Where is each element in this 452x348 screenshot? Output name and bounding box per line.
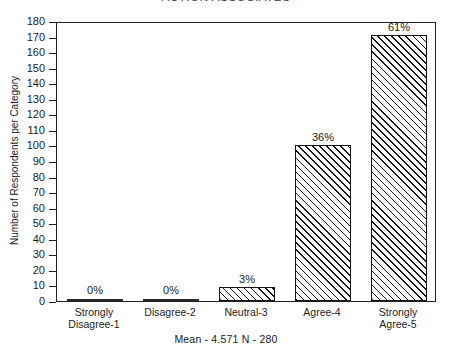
plot-area: 0%0%3%36%61% <box>56 22 436 302</box>
x-axis-category-label: StronglyDisagree-1 <box>56 307 132 330</box>
y-axis-tick-label: 150 <box>5 62 45 75</box>
y-axis-tick-label: 140 <box>5 77 45 90</box>
y-axis-tick-mark <box>49 302 56 303</box>
y-axis-tick-label: 60 <box>5 202 45 215</box>
x-axis-category-label-line: Neutral-3 <box>208 307 284 319</box>
y-axis-tick-label: 80 <box>5 171 45 184</box>
bar: 36% <box>295 145 351 301</box>
chart-title: ACTION ASSOCIATES <box>0 0 452 4</box>
y-axis-tick-label: 90 <box>5 155 45 168</box>
y-axis-tick-mark <box>49 53 56 54</box>
y-axis-tick-mark <box>49 255 56 256</box>
x-axis-category-label-line: Agree-4 <box>284 307 360 319</box>
y-axis-tick-mark <box>49 224 56 225</box>
y-axis-tick-mark <box>49 131 56 132</box>
y-axis-tick-label: 110 <box>5 124 45 137</box>
y-axis-tick-label: 130 <box>5 93 45 106</box>
y-axis-tick-mark <box>49 193 56 194</box>
bar-value-label: 36% <box>312 131 334 143</box>
bar-value-label: 0% <box>163 284 179 296</box>
y-axis-tick-label: 40 <box>5 233 45 246</box>
y-axis-tick-mark <box>49 146 56 147</box>
x-axis-category-label-line: Strongly <box>360 307 436 319</box>
bar: 0% <box>143 299 199 301</box>
bar-value-label: 3% <box>239 273 255 285</box>
y-axis-tick-label: 100 <box>5 139 45 152</box>
y-axis-tick-label: 170 <box>5 31 45 44</box>
x-axis-category-label: Neutral-3 <box>208 307 284 319</box>
y-axis-tick-mark <box>49 22 56 23</box>
y-axis-tick-label: 120 <box>5 108 45 121</box>
y-axis-tick-label: 50 <box>5 217 45 230</box>
x-axis-category-label-line: Strongly <box>56 307 132 319</box>
y-axis-tick-label: 70 <box>5 186 45 199</box>
y-axis-tick-mark <box>49 178 56 179</box>
y-axis-tick-label: 160 <box>5 46 45 59</box>
y-axis-tick-label: 30 <box>5 248 45 261</box>
bar-value-label: 61% <box>388 21 410 33</box>
y-axis-tick-label: 180 <box>5 15 45 28</box>
y-axis-tick-mark <box>49 209 56 210</box>
y-axis-tick-mark <box>49 286 56 287</box>
x-axis-category-label-line: Disagree-1 <box>56 319 132 331</box>
y-axis-tick-label: 0 <box>5 295 45 308</box>
bar-value-label: 0% <box>87 284 103 296</box>
y-axis-tick-mark <box>49 69 56 70</box>
bar: 0% <box>67 299 123 301</box>
x-axis-category-label: Disagree-2 <box>132 307 208 319</box>
y-axis-tick-mark <box>49 38 56 39</box>
y-axis-tick-mark <box>49 271 56 272</box>
y-axis-tick-mark <box>49 115 56 116</box>
x-axis-category-label: StronglyAgree-5 <box>360 307 436 330</box>
bar: 3% <box>219 287 275 301</box>
y-axis-tick-mark <box>49 162 56 163</box>
y-axis-tick-mark <box>49 240 56 241</box>
bar-chart-figure: ACTION ASSOCIATES Number of Respondents … <box>0 0 452 348</box>
y-axis-tick-label: 20 <box>5 264 45 277</box>
bar: 61% <box>371 35 427 301</box>
x-axis-category-label-line: Disagree-2 <box>132 307 208 319</box>
y-axis-tick-label: 10 <box>5 279 45 292</box>
chart-caption: Mean - 4.571 N - 280 <box>0 333 452 345</box>
y-axis-tick-mark <box>49 100 56 101</box>
x-axis-category-label: Agree-4 <box>284 307 360 319</box>
y-axis-tick-mark <box>49 84 56 85</box>
x-axis-category-label-line: Agree-5 <box>360 319 436 331</box>
